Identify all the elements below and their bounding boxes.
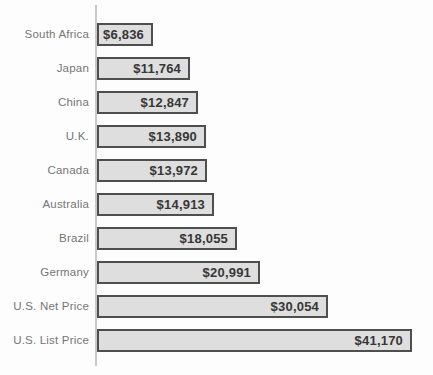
bar-row: Brazil$18,055 [0, 221, 433, 255]
bar-value-label: $13,972 [150, 163, 205, 178]
bar-row: South Africa$6,836 [0, 17, 433, 51]
bar-row: Japan$11,764 [0, 51, 433, 85]
bar: $41,170 [97, 329, 412, 352]
bar-row: Germany$20,991 [0, 255, 433, 289]
bar: $6,836 [97, 23, 153, 46]
category-label: U.S. Net Price [0, 300, 97, 312]
bar-row: U.S. Net Price$30,054 [0, 289, 433, 323]
bar-track: $41,170 [97, 329, 433, 352]
bar-value-label: $12,847 [141, 95, 196, 110]
bar-value-label: $20,991 [203, 265, 258, 280]
bar-value-label: $30,054 [271, 299, 326, 314]
bar-row: China$12,847 [0, 85, 433, 119]
chart-canvas: South Africa$6,836Japan$11,764China$12,8… [0, 0, 433, 375]
category-label: South Africa [0, 28, 97, 40]
bar-track: $12,847 [97, 91, 433, 114]
bar: $13,890 [97, 125, 206, 148]
bar-track: $6,836 [97, 23, 433, 46]
bar-chart: South Africa$6,836Japan$11,764China$12,8… [0, 0, 433, 375]
bar-value-label: $13,890 [149, 129, 204, 144]
bar-rows: South Africa$6,836Japan$11,764China$12,8… [0, 17, 433, 357]
category-label: Brazil [0, 232, 97, 244]
category-label: Australia [0, 198, 97, 210]
bar-track: $13,972 [97, 159, 433, 182]
bar-track: $20,991 [97, 261, 433, 284]
category-label: Canada [0, 164, 97, 176]
bar-value-label: $14,913 [157, 197, 212, 212]
bar-track: $18,055 [97, 227, 433, 250]
category-label: U.K. [0, 130, 97, 142]
bar: $14,913 [97, 193, 214, 216]
bar-row: Canada$13,972 [0, 153, 433, 187]
bar-value-label: $11,764 [133, 61, 188, 76]
bar-track: $13,890 [97, 125, 433, 148]
bar: $20,991 [97, 261, 260, 284]
category-label: U.S. List Price [0, 334, 97, 346]
bar: $12,847 [97, 91, 198, 114]
bar-row: U.S. List Price$41,170 [0, 323, 433, 357]
bar-value-label: $41,170 [355, 333, 410, 348]
bar-track: $14,913 [97, 193, 433, 216]
category-label: Japan [0, 62, 97, 74]
bar: $30,054 [97, 295, 328, 318]
bar-row: Australia$14,913 [0, 187, 433, 221]
bar: $13,972 [97, 159, 207, 182]
bar: $18,055 [97, 227, 237, 250]
bar-row: U.K.$13,890 [0, 119, 433, 153]
category-label: Germany [0, 266, 97, 278]
bar-value-label: $18,055 [180, 231, 235, 246]
bar-track: $30,054 [97, 295, 433, 318]
bar: $11,764 [97, 57, 190, 80]
category-label: China [0, 96, 97, 108]
bar-track: $11,764 [97, 57, 433, 80]
bar-value-label: $6,836 [103, 27, 151, 42]
